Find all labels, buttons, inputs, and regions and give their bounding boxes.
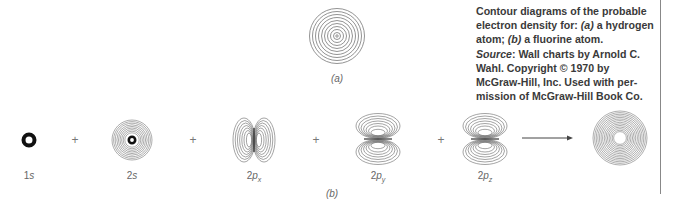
margin-rule [660,0,661,194]
sum-arrow [522,136,573,141]
caption-line-1: Contour diagrams of the probable [476,4,666,18]
caption-line-7: mission of McGraw-Hill Book Co. [476,89,666,103]
caption-line-5: Wahl. Copyright © 1970 by [476,61,666,75]
caption-line-6: McGraw-Hill, Inc. Used with per- [476,75,666,89]
orbital-2s-diagram [112,120,152,160]
orbital-label-2pz: 2pz [478,170,493,183]
orbital-label-1s: 1s [24,170,35,181]
plus-sign: + [312,133,319,147]
orbital-label-2px: 2px [247,170,262,183]
plus-sign: + [189,133,196,147]
orbital-2px-diagram [233,118,275,162]
fluorine-total-density-diagram [593,111,647,165]
orbital-label-2s: 2s [127,170,138,181]
orbital-2pz-diagram [463,114,507,165]
caption-line-3: atom; (b) a fluorine atom. [476,32,666,46]
caption-line-2: electron density for: (a) a hydrogen [476,18,666,32]
plus-sign: + [437,133,444,147]
figure-caption: Contour diagrams of the probable electro… [476,4,666,103]
caption-source: Source: Wall charts by Arnold C. [476,47,666,61]
orbital-1s-diagram [24,135,35,146]
panel-b-label: (b) [326,188,338,199]
orbital-2py-diagram [356,114,400,165]
panel-a-label: (a) [331,73,343,84]
orbital-label-2py: 2py [371,170,386,183]
plus-sign: + [71,133,78,147]
